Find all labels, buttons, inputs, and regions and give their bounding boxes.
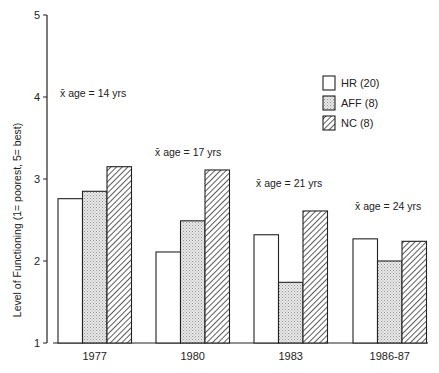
- age-annotation: x̄ age = 14 yrs: [60, 87, 126, 99]
- legend-label: NC (8): [341, 117, 373, 129]
- legend-label: HR (20): [341, 77, 380, 89]
- age-annotation: x̄ age = 17 yrs: [155, 146, 221, 158]
- bar-aff-1977: [83, 191, 108, 343]
- y-tick-label: 2: [34, 255, 40, 267]
- legend-swatch: [323, 96, 335, 110]
- bar-nc-1977: [107, 167, 132, 343]
- bar-nc-1986-87: [402, 241, 427, 343]
- age-annotation: x̄ age = 21 yrs: [256, 177, 322, 189]
- bar-aff-1983: [279, 282, 304, 343]
- chart-canvas: 12345Level of Functioning (1= poorest, 5…: [0, 0, 439, 373]
- bar-aff-1980: [181, 221, 206, 343]
- x-tick-label: 1977: [83, 350, 107, 362]
- bar-hr-1980: [156, 252, 181, 343]
- y-tick-label: 5: [34, 9, 40, 21]
- y-tick-label: 4: [34, 91, 40, 103]
- bar-hr-1977: [58, 199, 83, 343]
- bars: [58, 167, 427, 343]
- bar-nc-1980: [205, 170, 230, 343]
- y-axis-label: Level of Functioning (1= poorest, 5= bes…: [11, 123, 23, 317]
- legend: HR (20)AFF (8)NC (8): [323, 76, 380, 130]
- legend-swatch: [323, 76, 335, 90]
- x-tick-label: 1980: [181, 350, 205, 362]
- legend-swatch: [323, 116, 335, 130]
- x-tick-label: 1986-87: [370, 350, 410, 362]
- x-tick-label: 1983: [279, 350, 303, 362]
- legend-label: AFF (8): [341, 97, 378, 109]
- bar-aff-1986-87: [378, 261, 403, 343]
- y-tick-label: 3: [34, 173, 40, 185]
- age-annotation: x̄ age = 24 yrs: [355, 200, 421, 212]
- bar-hr-1983: [254, 235, 279, 343]
- bar-hr-1986-87: [353, 239, 378, 343]
- bar-chart: 12345Level of Functioning (1= poorest, 5…: [0, 0, 439, 373]
- y-tick-label: 1: [34, 337, 40, 349]
- bar-nc-1983: [303, 211, 328, 343]
